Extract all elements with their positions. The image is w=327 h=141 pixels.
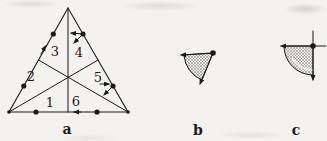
sector-b-region	[184, 53, 213, 80]
sector-c-point-dot	[310, 43, 316, 49]
subfigure-b-label: b	[193, 122, 203, 138]
subfigure-c-label: c	[292, 122, 301, 138]
left-edge-lower-dot	[21, 83, 26, 88]
figure-c-hatched-quarter-disk: c	[281, 31, 326, 138]
figure-a-triangle-with-medians: 1 2 3 4 5 6 a	[7, 8, 130, 137]
region-label-3: 3	[51, 44, 59, 59]
bottom-edge-left-dot	[33, 109, 38, 114]
left-edge-direction-arrow	[41, 46, 46, 54]
region-label-4: 4	[75, 45, 83, 60]
figure-canvas: 1 2 3 4 5 6 a b c	[0, 0, 327, 141]
right-edge-upper-dot	[80, 31, 85, 36]
region-label-1: 1	[46, 95, 54, 110]
region-label-2: 2	[27, 69, 35, 84]
region-label-6: 6	[72, 94, 80, 109]
left-edge-upper-dot	[51, 31, 56, 36]
right-edge-lower-dot	[110, 83, 115, 88]
sector-b-point-dot	[210, 50, 216, 56]
bottom-right-vertex-dot	[126, 110, 130, 114]
figure-b-hatched-sector: b	[181, 50, 216, 138]
bottom-edge-right-dot	[94, 109, 99, 114]
region-label-5: 5	[94, 70, 102, 85]
scanned-figure-page: 1 2 3 4 5 6 a b c	[0, 0, 327, 141]
subfigure-a-label: a	[62, 121, 71, 137]
bottom-left-vertex-dot	[7, 110, 11, 114]
sector-c-region	[284, 46, 313, 75]
